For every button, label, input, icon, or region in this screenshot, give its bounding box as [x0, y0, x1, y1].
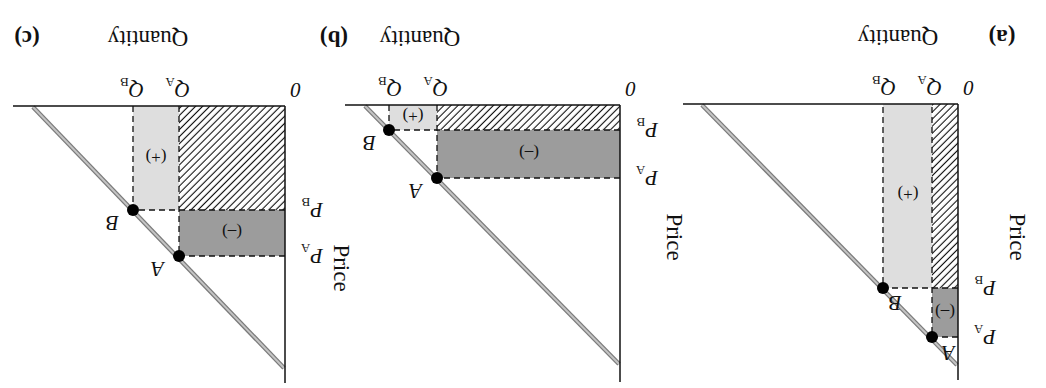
figure-canvas: A B (+) (–) PA PB 0 QA QB Quantity (a) P…: [0, 0, 1046, 388]
quantity-b-label: QB: [872, 73, 896, 100]
point-a-marker: [173, 250, 185, 262]
origin-label: 0: [625, 77, 636, 101]
hatched-retained-revenue-area: [932, 104, 958, 288]
origin-label: 0: [290, 78, 301, 102]
x-axis-title: Quantity: [107, 26, 188, 51]
quantity-b-label: QB: [378, 74, 402, 101]
panel-a: A B (+) (–) PA PB 0 QA QB Quantity (a) P…: [683, 25, 1030, 380]
y-axis-title: Price: [1005, 213, 1030, 260]
point-a-label: A: [942, 341, 957, 365]
gain-label: (+): [146, 148, 167, 167]
gain-label: (+): [898, 185, 919, 204]
panel-label: (a): [989, 25, 1016, 50]
loss-label: (–): [519, 144, 539, 163]
price-a-label: PA: [300, 241, 324, 268]
y-axis-title: Price: [329, 244, 354, 291]
x-axis-title: Quantity: [857, 25, 938, 50]
panel-c: A B (+) (–) PA PB 0 QA QB Quantity (c) P…: [13, 26, 354, 383]
point-a-marker: [431, 172, 443, 184]
point-a-label: A: [409, 179, 424, 203]
quantity-b-label: QB: [120, 75, 144, 102]
point-b-marker: [877, 282, 889, 294]
demand-revenue-figure: A B (+) (–) PA PB 0 QA QB Quantity (a) P…: [0, 0, 1046, 388]
loss-label: (–): [935, 303, 955, 322]
point-b-marker: [127, 204, 139, 216]
price-b-label: PB: [636, 115, 659, 142]
point-b-label: B: [106, 211, 119, 235]
panel-label: (c): [14, 26, 40, 51]
panel-b: A B (+) (–) PA PB 0 QA QB Quantity (b) P…: [320, 26, 687, 382]
price-b-label: PB: [301, 195, 324, 222]
panel-label: (b): [320, 26, 348, 51]
hatched-retained-revenue-area: [437, 105, 620, 130]
y-axis-title: Price: [662, 213, 687, 260]
quantity-a-label: QA: [423, 74, 448, 101]
origin-label: 0: [963, 76, 974, 100]
point-b-marker: [383, 124, 395, 136]
price-a-label: PA: [973, 322, 997, 349]
quantity-a-label: QA: [917, 73, 942, 100]
gain-label: (+): [403, 107, 424, 126]
point-a-label: A: [151, 257, 166, 281]
loss-label: (–): [222, 223, 242, 242]
point-b-label: B: [363, 131, 376, 155]
point-a-marker: [926, 331, 938, 343]
quantity-a-label: QA: [165, 75, 190, 102]
hatched-retained-revenue-area: [179, 106, 285, 210]
price-b-label: PB: [974, 273, 997, 300]
point-b-label: B: [889, 291, 902, 315]
x-axis-title: Quantity: [379, 26, 460, 51]
price-a-label: PA: [635, 163, 659, 190]
